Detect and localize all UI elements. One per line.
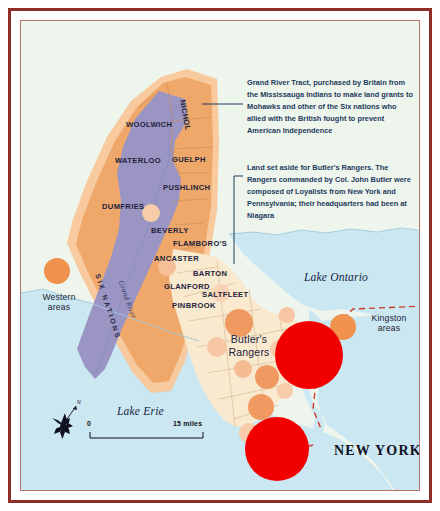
annotation-butlers-rangers: Land set aside for Butler's Rangers. The…: [247, 162, 415, 222]
map-outer-frame: NICHOL WOOLWICH WATERLOO GUELPH PUSHLINC…: [8, 8, 432, 503]
map-inner-frame: NICHOL WOOLWICH WATERLOO GUELPH PUSHLINC…: [20, 20, 420, 491]
map-canvas: NICHOL WOOLWICH WATERLOO GUELPH PUSHLINC…: [21, 21, 419, 490]
annotation-grand-river-tract: Grand River Tract, purchased by Britain …: [247, 77, 415, 137]
